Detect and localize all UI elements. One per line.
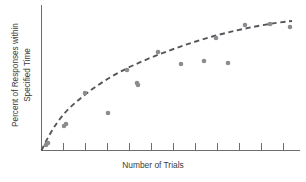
chart-figure: Percent of Responses within Specified Ti…	[0, 0, 306, 182]
trend-curve	[42, 21, 293, 151]
data-point	[106, 111, 111, 116]
x-axis-ticks	[63, 143, 283, 150]
x-axis-label: Number of Trials	[0, 160, 306, 170]
data-point	[156, 50, 161, 55]
data-point	[288, 25, 293, 30]
data-point	[83, 91, 88, 96]
data-point	[46, 141, 51, 146]
data-point	[64, 122, 69, 127]
data-point	[268, 22, 273, 27]
data-point	[243, 23, 248, 28]
data-point	[202, 59, 207, 64]
data-point	[226, 61, 231, 66]
data-point	[179, 62, 184, 67]
chart-plot-area	[0, 0, 306, 182]
data-point	[214, 36, 219, 41]
data-point	[136, 83, 141, 88]
data-point	[125, 68, 130, 73]
data-points	[44, 22, 293, 148]
